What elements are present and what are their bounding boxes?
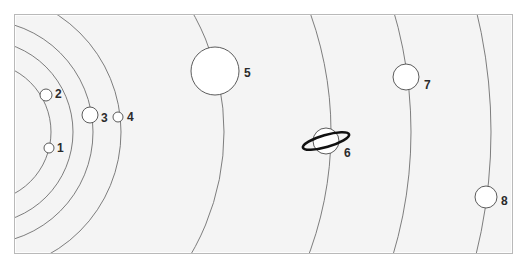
planet-body-4 — [113, 112, 123, 122]
diagram-canvas: 12345678 — [0, 0, 530, 269]
orbit-arc-6 — [15, 15, 331, 253]
planet-label-8: 8 — [501, 195, 508, 207]
orbit-arc-5 — [15, 15, 224, 253]
planet-label-2: 2 — [55, 88, 62, 100]
planet-4 — [113, 112, 123, 122]
diagram-frame: 12345678 — [14, 14, 513, 254]
orbit-arc-3 — [15, 20, 93, 244]
planet-label-3: 3 — [101, 112, 108, 124]
planet-body-7 — [393, 64, 419, 90]
planet-label-4: 4 — [127, 111, 134, 123]
planet-body-3 — [82, 107, 98, 123]
orbit-arc-4 — [15, 15, 121, 253]
orbit-arc-2 — [15, 40, 73, 224]
orbit-arc-8 — [15, 15, 491, 253]
planet-body-8 — [475, 186, 497, 208]
planet-2 — [40, 89, 52, 101]
solar-system-svg — [15, 15, 512, 253]
planet-label-5: 5 — [244, 67, 251, 79]
planet-body-2 — [40, 89, 52, 101]
planet-7 — [393, 64, 419, 90]
planet-5 — [191, 47, 239, 95]
planet-1 — [44, 143, 54, 153]
planet-label-7: 7 — [424, 79, 431, 91]
planet-3 — [82, 107, 98, 123]
planet-label-1: 1 — [57, 142, 64, 154]
orbit-arcs-group — [15, 15, 491, 253]
planet-body-1 — [44, 143, 54, 153]
planet-label-6: 6 — [344, 147, 351, 159]
planet-8 — [475, 186, 497, 208]
planet-body-5 — [191, 47, 239, 95]
planets-group — [40, 47, 497, 208]
orbit-arc-1 — [15, 62, 51, 202]
